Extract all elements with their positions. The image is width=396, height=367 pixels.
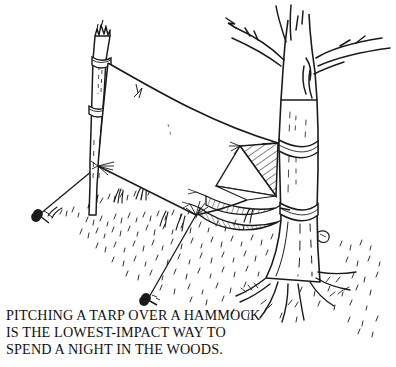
- caption: PITCHING A TARP OVER A HAMMOCK IS THE LO…: [6, 307, 336, 358]
- caption-line-2: IS THE LOWEST-IMPACT WAY TO: [6, 324, 336, 341]
- illustration-figure: PITCHING A TARP OVER A HAMMOCK IS THE LO…: [0, 0, 396, 367]
- caption-line-3: SPEND A NIGHT IN THE WOODS.: [6, 341, 336, 358]
- tree-trunk-stub: [318, 231, 329, 243]
- caption-line-1: PITCHING A TARP OVER A HAMMOCK: [6, 307, 336, 324]
